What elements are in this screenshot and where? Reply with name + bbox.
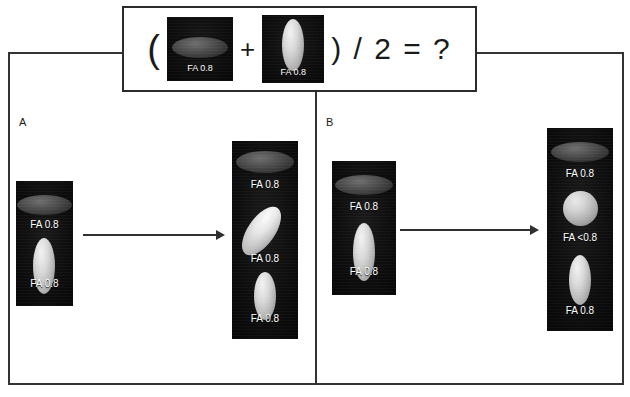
vertical-ellipsoid-icon <box>282 19 304 71</box>
equation-tail: ) / 2 = ? <box>331 34 452 64</box>
figure-root: ( FA 0.8 + FA 0.8 ) / 2 = ? A FA 0.8 FA … <box>0 0 630 397</box>
fa-label: FA 0.8 <box>232 253 298 264</box>
fa-label: FA 0.8 <box>262 67 324 77</box>
panel-letter-b: B <box>326 116 333 128</box>
fa-label: FA 0.8 <box>232 179 298 190</box>
arrow-head-icon <box>216 230 225 240</box>
panel-b-transform-arrow <box>400 224 539 236</box>
horizontal-disc-icon <box>335 175 393 195</box>
fa-label: FA 0.8 <box>16 278 73 289</box>
panel-letter-a: A <box>19 116 26 128</box>
vertical-ellipsoid-icon <box>569 255 591 305</box>
panel-b-output-tile: FA 0.8 FA <0.8 FA 0.8 <box>547 128 613 331</box>
panel-a-output-tile: FA 0.8 FA 0.8 FA 0.8 <box>232 141 298 339</box>
equation-operand-right-tile: FA 0.8 <box>262 15 324 83</box>
fa-label: FA 0.8 <box>232 313 298 324</box>
panel-divider <box>315 52 317 385</box>
panel-b-input-tile: FA 0.8 FA 0.8 <box>332 161 396 295</box>
open-paren: ( <box>147 30 160 68</box>
fa-label: FA 0.8 <box>332 266 396 277</box>
fa-label: FA 0.8 <box>167 63 233 73</box>
horizontal-disc-icon <box>17 195 72 215</box>
equation-operand-left-tile: FA 0.8 <box>167 17 233 81</box>
fa-label: FA <0.8 <box>547 232 613 243</box>
equation-box: ( FA 0.8 + FA 0.8 ) / 2 = ? <box>122 6 477 92</box>
horizontal-disc-icon <box>236 151 294 173</box>
horizontal-disc-icon <box>551 142 609 162</box>
fa-label: FA 0.8 <box>547 305 613 316</box>
arrow-head-icon <box>530 225 539 235</box>
arrow-shaft <box>400 229 530 231</box>
plus-sign: + <box>240 36 255 62</box>
sphere-icon <box>563 191 598 226</box>
panel-a-input-tile: FA 0.8 FA 0.8 <box>16 181 73 306</box>
fa-label: FA 0.8 <box>332 201 396 212</box>
arrow-shaft <box>83 234 216 236</box>
fa-label: FA 0.8 <box>547 168 613 179</box>
panel-a-transform-arrow <box>83 229 225 241</box>
fa-label: FA 0.8 <box>16 219 73 230</box>
horizontal-disc-icon <box>172 37 228 58</box>
